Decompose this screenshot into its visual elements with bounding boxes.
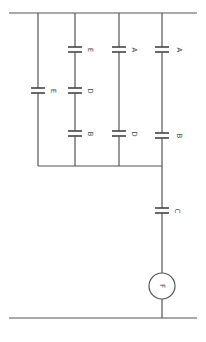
label-cap-b-upper: B <box>86 132 94 137</box>
label-cap-a-mid: A <box>130 48 138 53</box>
label-cap-e-upper: E <box>86 48 94 52</box>
label-cap-d-upper: D <box>86 88 94 93</box>
label-cap-d-mid: D <box>130 131 138 136</box>
branch-left: E <box>31 13 57 166</box>
circuit-diagram: A B A D E D B E <box>0 0 206 342</box>
branch-upper: E D B <box>68 13 94 166</box>
label-cap-e-left: E <box>49 89 57 93</box>
branch-right: A B <box>155 13 183 166</box>
label-cap-a-right: A <box>175 48 183 53</box>
label-cap-c: C <box>173 209 181 214</box>
series-path: C F <box>149 166 181 318</box>
label-cap-b-right: B <box>175 134 183 139</box>
branch-mid: A D <box>112 13 138 166</box>
label-source-f: F <box>158 284 166 288</box>
